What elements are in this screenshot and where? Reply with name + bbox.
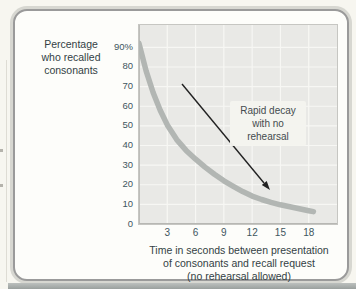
x-tick-label: 9 bbox=[213, 227, 235, 238]
y-axis-tick-labels: 0102030405060708090% bbox=[85, 11, 133, 241]
x-tick-label: 6 bbox=[185, 227, 207, 238]
annotation-rapid-decay: Rapid decay with no rehearsal bbox=[230, 101, 306, 146]
x-axis-title-line: Time in seconds between presentation bbox=[129, 244, 349, 257]
y-tick-label: 70 bbox=[85, 80, 133, 91]
y-tick-label: 80 bbox=[85, 60, 133, 71]
y-tick-label: 90% bbox=[85, 41, 133, 52]
x-tick-label: 18 bbox=[298, 227, 320, 238]
x-tick-label: 15 bbox=[269, 227, 291, 238]
page-edge-mark bbox=[0, 149, 3, 152]
annotation-line: with no bbox=[232, 117, 304, 130]
y-tick-label: 40 bbox=[85, 139, 133, 150]
textbook-figure-page: Percentage who recalled consonants 01020… bbox=[0, 0, 356, 289]
y-tick-label: 10 bbox=[85, 198, 133, 209]
page-edge-artifact bbox=[6, 60, 7, 282]
y-tick-label: 30 bbox=[85, 159, 133, 170]
y-tick-label: 0 bbox=[85, 218, 133, 229]
page-bottom-edge bbox=[8, 283, 356, 289]
annotation-line: Rapid decay bbox=[232, 104, 304, 117]
y-tick-label: 50 bbox=[85, 119, 133, 130]
x-axis-title-line: of consonants and recall request bbox=[129, 257, 349, 270]
x-axis-tick-labels: 369121518 bbox=[139, 227, 337, 241]
x-axis-title: Time in seconds between presentation of … bbox=[129, 244, 349, 283]
y-tick-label: 20 bbox=[85, 178, 133, 189]
plot-area: Rapid decay with no rehearsal bbox=[138, 24, 338, 225]
y-tick-label: 60 bbox=[85, 100, 133, 111]
x-tick-label: 12 bbox=[241, 227, 263, 238]
page-edge-mark bbox=[0, 184, 3, 187]
annotation-line: rehearsal bbox=[232, 130, 304, 143]
x-axis-title-line: (no rehearsal allowed) bbox=[129, 270, 349, 283]
x-tick-label: 3 bbox=[156, 227, 178, 238]
figure-panel: Percentage who recalled consonants 01020… bbox=[13, 9, 349, 281]
